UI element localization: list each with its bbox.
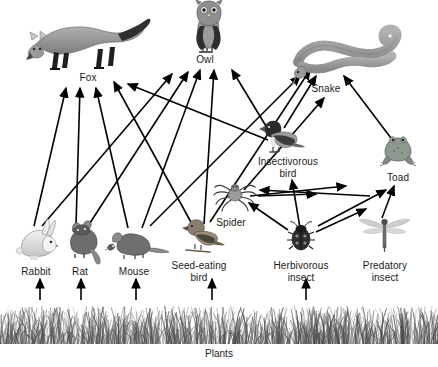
arrow-rabbit-to-owl xyxy=(42,74,172,226)
arrow-rabbit-to-fox xyxy=(34,88,66,226)
fox-icon xyxy=(26,19,150,70)
arrow-seed_eating_bird-to-owl xyxy=(204,70,214,224)
plants-label: Plants xyxy=(205,348,233,359)
arrow-herbivorous_insect-to-insectivorous_bird xyxy=(292,180,300,228)
ladybug-icon xyxy=(287,222,315,250)
arrow-toad-to-snake xyxy=(344,76,394,142)
node-label-rabbit: Rabbit xyxy=(21,266,51,278)
node-label-herbivorous_insect: Herbivorous insect xyxy=(273,260,328,283)
arrow-seed_eating_bird-to-fox xyxy=(114,82,192,224)
node-label-rat: Rat xyxy=(72,266,88,278)
food-web-diagram: FoxOwlSnakeInsectivorous birdToadSpiderR… xyxy=(0,0,438,367)
node-label-seed_eating_bird: Seed-eating bird xyxy=(171,260,226,283)
toad-icon xyxy=(380,137,416,166)
node-label-owl: Owl xyxy=(196,54,214,66)
node-label-snake: Snake xyxy=(312,83,341,95)
node-label-mouse: Mouse xyxy=(119,266,150,278)
arrow-rat-to-fox xyxy=(76,88,80,226)
arrow-herbivorous_insect-to-spider xyxy=(249,203,288,230)
mouse-icon xyxy=(105,233,169,259)
dragonfly-icon xyxy=(359,219,410,252)
node-label-predatory_insect: Predatory insect xyxy=(363,260,407,283)
node-label-spider: Spider xyxy=(216,217,246,229)
rabbit-icon xyxy=(16,219,59,260)
arrow-herbivorous_insect-to-predatory_insect xyxy=(316,209,366,232)
node-label-toad: Toad xyxy=(387,172,409,184)
rat-icon xyxy=(71,221,101,264)
owl-icon xyxy=(195,0,223,53)
food-web-arrows xyxy=(0,0,438,367)
node-label-insectivorous_bird: Insectivorous bird xyxy=(258,156,318,179)
node-label-fox: Fox xyxy=(80,72,97,84)
